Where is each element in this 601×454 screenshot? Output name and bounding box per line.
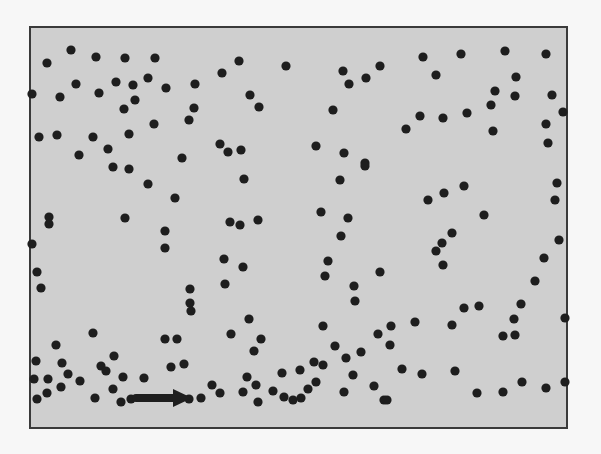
dot bbox=[349, 281, 358, 290]
dot bbox=[552, 178, 561, 187]
dot bbox=[55, 92, 64, 101]
dot bbox=[560, 377, 569, 386]
dot bbox=[101, 366, 110, 375]
dot bbox=[56, 382, 65, 391]
dot bbox=[498, 387, 507, 396]
dot bbox=[207, 380, 216, 389]
dot bbox=[27, 89, 36, 98]
dot bbox=[318, 321, 327, 330]
dot bbox=[418, 52, 427, 61]
dot bbox=[44, 219, 53, 228]
dot bbox=[438, 260, 447, 269]
dot bbox=[88, 132, 97, 141]
dot bbox=[128, 80, 137, 89]
dot bbox=[226, 329, 235, 338]
dot bbox=[120, 213, 129, 222]
dot bbox=[361, 73, 370, 82]
dot bbox=[341, 353, 350, 362]
dot bbox=[344, 79, 353, 88]
dot bbox=[279, 392, 288, 401]
dot bbox=[71, 79, 80, 88]
dot bbox=[196, 393, 205, 402]
dot bbox=[560, 313, 569, 322]
dot bbox=[103, 144, 112, 153]
dot bbox=[450, 366, 459, 375]
dot bbox=[328, 105, 337, 114]
dot bbox=[239, 174, 248, 183]
dot bbox=[356, 347, 365, 356]
dot bbox=[236, 145, 245, 154]
dot bbox=[42, 388, 51, 397]
dot bbox=[385, 340, 394, 349]
dot bbox=[459, 181, 468, 190]
dot bbox=[339, 148, 348, 157]
dot bbox=[295, 365, 304, 374]
dot bbox=[509, 314, 518, 323]
dot bbox=[462, 108, 471, 117]
dot bbox=[116, 397, 125, 406]
dot bbox=[539, 253, 548, 262]
dot bbox=[235, 220, 244, 229]
dot-field-figure bbox=[0, 0, 601, 454]
dot bbox=[439, 188, 448, 197]
dot bbox=[130, 95, 139, 104]
dot bbox=[51, 340, 60, 349]
dot bbox=[415, 111, 424, 120]
dot bbox=[143, 179, 152, 188]
dot bbox=[172, 334, 181, 343]
dot bbox=[281, 61, 290, 70]
dot bbox=[541, 383, 550, 392]
dot bbox=[179, 359, 188, 368]
dot bbox=[256, 334, 265, 343]
dot bbox=[541, 119, 550, 128]
dot bbox=[57, 358, 66, 367]
dot bbox=[311, 377, 320, 386]
dot bbox=[511, 72, 520, 81]
dot bbox=[296, 393, 305, 402]
dot bbox=[375, 61, 384, 70]
dot bbox=[184, 115, 193, 124]
dot bbox=[547, 90, 556, 99]
dot bbox=[160, 226, 169, 235]
dot bbox=[63, 369, 72, 378]
dot bbox=[245, 90, 254, 99]
dot bbox=[27, 239, 36, 248]
dot bbox=[339, 387, 348, 396]
dot bbox=[550, 195, 559, 204]
dot bbox=[437, 238, 446, 247]
dot bbox=[410, 317, 419, 326]
dot bbox=[343, 213, 352, 222]
dot bbox=[186, 306, 195, 315]
dot bbox=[316, 207, 325, 216]
dot bbox=[36, 283, 45, 292]
dot bbox=[330, 341, 339, 350]
dot bbox=[52, 130, 61, 139]
dot bbox=[124, 129, 133, 138]
dot bbox=[109, 351, 118, 360]
dot bbox=[360, 161, 369, 170]
dot bbox=[488, 126, 497, 135]
dot bbox=[74, 150, 83, 159]
dot bbox=[303, 384, 312, 393]
dot bbox=[219, 254, 228, 263]
dot bbox=[320, 271, 329, 280]
dot bbox=[288, 395, 297, 404]
dot bbox=[373, 329, 382, 338]
dot bbox=[166, 362, 175, 371]
dot bbox=[500, 46, 509, 55]
dot bbox=[29, 374, 38, 383]
dot bbox=[215, 388, 224, 397]
dot bbox=[348, 370, 357, 379]
dot bbox=[456, 49, 465, 58]
dot bbox=[215, 139, 224, 148]
dot bbox=[254, 102, 263, 111]
dot bbox=[253, 397, 262, 406]
dot bbox=[43, 374, 52, 383]
dot bbox=[225, 217, 234, 226]
dot bbox=[554, 235, 563, 244]
dot bbox=[190, 79, 199, 88]
dot bbox=[447, 320, 456, 329]
dot bbox=[338, 66, 347, 75]
dot bbox=[90, 393, 99, 402]
dot bbox=[242, 372, 251, 381]
